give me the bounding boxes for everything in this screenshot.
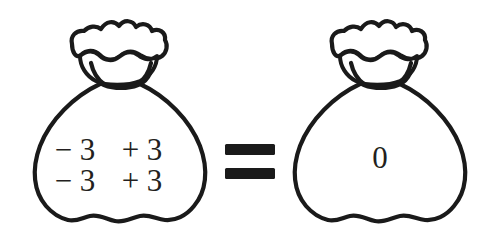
equals-bar-bottom bbox=[225, 168, 275, 179]
left-bag-row2-minus: − 3 bbox=[55, 163, 96, 198]
left-bag-row2-plus: + 3 bbox=[122, 163, 163, 198]
left-bag-row1-minus: − 3 bbox=[55, 132, 96, 167]
equals-symbol-text: = bbox=[250, 162, 251, 163]
equals-bar-top bbox=[225, 144, 275, 155]
equals-sign: = bbox=[225, 144, 275, 179]
left-bag-row1-plus: + 3 bbox=[122, 132, 163, 167]
left-money-bag: − 3 + 3 − 3 + 3 bbox=[35, 21, 205, 221]
figure-canvas: Zero pair money bags equation − 3 + 3 − … bbox=[0, 0, 502, 251]
right-bag-value: 0 bbox=[372, 140, 388, 175]
zero-pair-equation-illustration: − 3 + 3 − 3 + 3 = 0 bbox=[0, 0, 502, 251]
right-money-bag: 0 bbox=[295, 21, 465, 221]
